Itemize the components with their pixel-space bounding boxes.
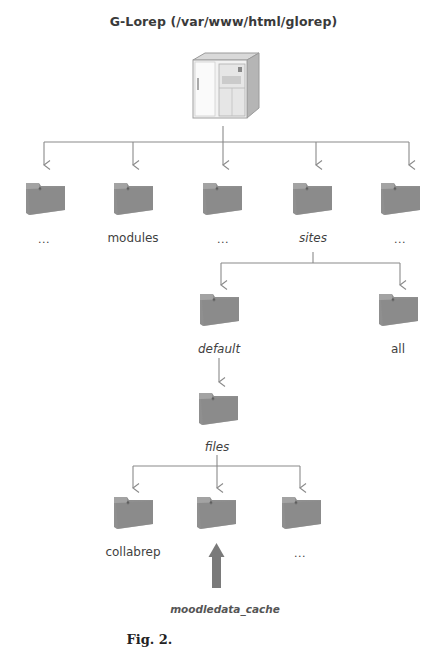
caption-text xyxy=(195,632,321,647)
folder-icon[interactable] xyxy=(378,291,416,325)
folder-label: ... xyxy=(240,547,360,560)
folder-icon[interactable] xyxy=(25,180,63,214)
folder-icon[interactable] xyxy=(380,180,418,214)
moodledata-cache-label: moodledata_cache xyxy=(155,603,295,615)
folder-icon[interactable] xyxy=(281,494,319,528)
folder-label-files: files xyxy=(157,440,277,454)
folder-label-all: all xyxy=(338,342,447,356)
server-tower-icon xyxy=(185,50,265,122)
folder-icon[interactable] xyxy=(199,291,237,325)
up-arrow-icon xyxy=(209,543,225,588)
folder-label: ... xyxy=(340,233,447,246)
folder-icon[interactable] xyxy=(202,180,240,214)
folder-icon[interactable] xyxy=(113,180,151,214)
figure-caption: Fig. 2. xyxy=(0,632,447,647)
folder-icon[interactable] xyxy=(113,494,151,528)
folder-icon[interactable] xyxy=(198,390,236,424)
folder-label-default: default xyxy=(159,342,279,356)
folder-label-collabrep: collabrep xyxy=(73,545,193,559)
folder-icon[interactable] xyxy=(196,494,234,528)
caption-prefix: Fig. 2. xyxy=(126,632,172,647)
folder-icon[interactable] xyxy=(292,180,330,214)
